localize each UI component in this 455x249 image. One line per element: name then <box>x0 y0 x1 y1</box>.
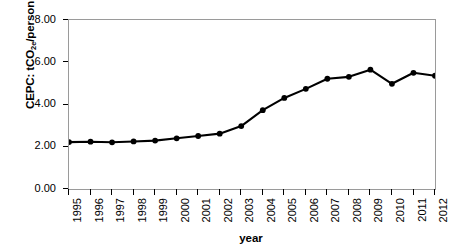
x-axis-title: year <box>68 232 434 244</box>
chart-figure: CEPC: tCO2e/person 8.00 6.00 4.00 2.00 0… <box>0 0 455 249</box>
x-axis-tick-labels: 1995199619971998199920002001200220032004… <box>0 0 455 249</box>
x-tick-label-2012: 2012 <box>438 198 449 238</box>
